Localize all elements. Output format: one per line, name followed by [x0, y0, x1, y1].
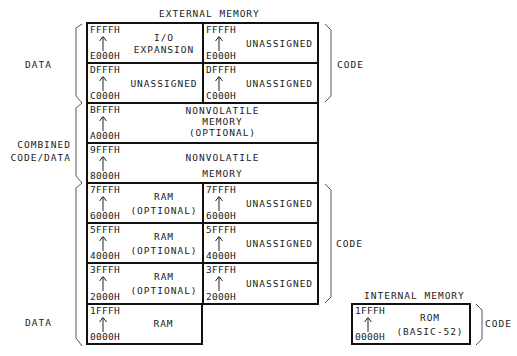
- right-bracket-code-top: [325, 24, 331, 102]
- label-data-bottom: DATA: [25, 317, 52, 329]
- left-bracket-data-top: [76, 24, 82, 108]
- label-code-bottom: CODE: [336, 238, 363, 250]
- left-bracket-data-bottom: [76, 188, 82, 346]
- left-bracket-combined: [76, 108, 82, 188]
- right-bracket-code-bottom: [325, 184, 331, 303]
- brackets: [0, 0, 517, 356]
- label-code-top: CODE: [337, 59, 364, 71]
- label-data-top: DATA: [25, 59, 52, 71]
- right-bracket-code-internal: [476, 304, 482, 345]
- label-code-internal: CODE: [485, 318, 512, 330]
- label-combined-code-data: COMBINED CODE/DATA: [11, 138, 71, 164]
